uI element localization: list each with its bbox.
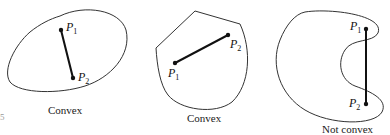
margin-mark: 5: [0, 112, 5, 122]
label-p1-fig2: P1: [168, 66, 179, 82]
label-p2-fig2: P2: [230, 37, 241, 53]
convex-polygon-shape: [156, 11, 248, 109]
caption-fig1: Convex: [48, 104, 82, 116]
label-p2-fig3: P2: [349, 96, 360, 112]
label-p1-fig1: P1: [66, 20, 77, 36]
point-p1-1: [59, 28, 63, 32]
point-p2-3: [364, 102, 368, 106]
caption-fig3: Not convex: [322, 123, 373, 135]
segment-p1-p2-1: [61, 30, 73, 78]
point-p1-3: [364, 27, 368, 31]
label-p1-fig3: P1: [350, 19, 361, 35]
caption-fig2: Convex: [187, 112, 221, 124]
point-p1-2: [173, 61, 177, 65]
label-p2-fig1: P2: [78, 70, 89, 86]
point-p2-1: [71, 76, 75, 80]
segment-p1-p2-2: [175, 35, 228, 63]
